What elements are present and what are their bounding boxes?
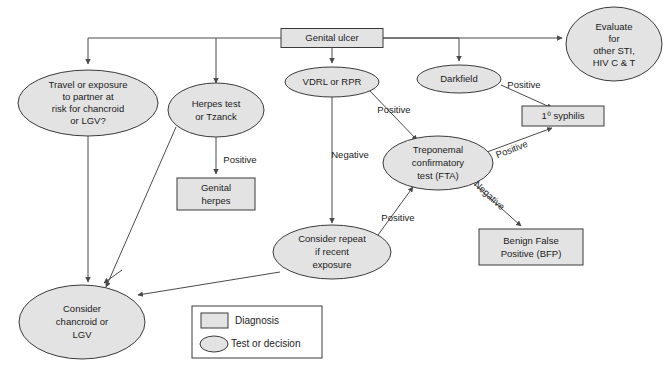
node-herpes-test[interactable]: Herpes test or Tzanck bbox=[168, 83, 264, 137]
legend-test-decision-label: Test or decision bbox=[231, 338, 300, 349]
legend-item-diagnosis: Diagnosis bbox=[201, 313, 279, 328]
node-evaluate-other-sti-line-1: for bbox=[608, 33, 619, 44]
legend: Diagnosis Test or decision bbox=[192, 306, 322, 358]
legend-diagnosis-label: Diagnosis bbox=[235, 315, 279, 326]
node-travel-exposure[interactable]: Travel or exposure to partner at risk fo… bbox=[18, 70, 158, 136]
node-travel-exposure-line-0: Travel or exposure bbox=[49, 79, 128, 90]
node-benign-false-positive-line-0: Benign False bbox=[503, 235, 558, 246]
edge-label-layer: Positive Negative Positive Positive Posi… bbox=[223, 79, 540, 223]
flowchart-svg: Genital ulcer Travel or exposure to part… bbox=[0, 0, 670, 382]
edge-ulcer-to-darkfield bbox=[383, 38, 459, 61]
node-consider-repeat-line-2: exposure bbox=[312, 259, 351, 270]
edge-repeat-to-chancroid bbox=[138, 272, 280, 295]
edge-ulcer-to-travel bbox=[88, 38, 281, 64]
edge-label-vdrl-negative: Negative bbox=[331, 149, 369, 160]
legend-item-test-decision: Test or decision bbox=[200, 336, 300, 352]
legend-test-decision-swatch bbox=[200, 336, 228, 352]
node-vdrl-rpr-line-0: VDRL or RPR bbox=[303, 76, 362, 87]
node-travel-exposure-line-2: risk for chancroid bbox=[52, 103, 124, 114]
node-consider-repeat[interactable]: Consider repeat if recent exposure bbox=[273, 225, 391, 279]
node-benign-false-positive[interactable]: Benign False Positive (BFP) bbox=[479, 229, 583, 265]
node-genital-herpes-line-1: herpes bbox=[201, 195, 230, 206]
node-herpes-test-line-1: or Tzanck bbox=[195, 111, 237, 122]
edge-label-fta-positive-syphilis: Positive bbox=[494, 138, 529, 160]
node-genital-herpes[interactable]: Genital herpes bbox=[177, 178, 255, 210]
node-consider-repeat-line-1: if recent bbox=[315, 246, 349, 257]
node-primary-syphilis-line-0: 1⁰ syphilis bbox=[541, 110, 584, 121]
node-evaluate-other-sti-line-3: HIV C & T bbox=[593, 57, 636, 68]
edge-vdrl-to-fta bbox=[370, 91, 417, 140]
node-consider-chancroid-line-0: Consider bbox=[63, 303, 101, 314]
node-darkfield-line-0: Darkfield bbox=[440, 73, 478, 84]
node-layer: Genital ulcer Travel or exposure to part… bbox=[18, 7, 662, 359]
edge-label-fta-negative: Negative bbox=[472, 178, 507, 212]
node-evaluate-other-sti-line-2: other STI, bbox=[593, 45, 635, 56]
edge-label-repeat-positive: Positive bbox=[381, 212, 414, 223]
node-herpes-test-line-0: Herpes test bbox=[192, 98, 241, 109]
edge-label-herpes-positive: Positive bbox=[223, 154, 256, 165]
node-treponemal-fta-line-1: confirmatory bbox=[412, 157, 465, 168]
edge-label-vdrl-positive: Positive bbox=[377, 104, 410, 115]
node-primary-syphilis[interactable]: 1⁰ syphilis bbox=[522, 106, 604, 126]
edge-herpes-to-chancroid bbox=[106, 127, 176, 287]
node-genital-ulcer[interactable]: Genital ulcer bbox=[281, 29, 383, 48]
node-travel-exposure-line-1: to partner at bbox=[62, 91, 114, 102]
node-vdrl-rpr[interactable]: VDRL or RPR bbox=[285, 67, 379, 97]
node-consider-chancroid-line-1: chancroid or bbox=[56, 316, 108, 327]
node-benign-false-positive-line-1: Positive (BFP) bbox=[501, 248, 562, 259]
node-consider-repeat-line-0: Consider repeat bbox=[298, 233, 366, 244]
node-genital-ulcer-line-0: Genital ulcer bbox=[305, 32, 358, 43]
node-evaluate-other-sti[interactable]: Evaluate for other STI, HIV C & T bbox=[566, 7, 662, 81]
node-darkfield[interactable]: Darkfield bbox=[417, 65, 501, 93]
node-genital-herpes-line-0: Genital bbox=[201, 182, 231, 193]
legend-diagnosis-swatch bbox=[201, 313, 228, 328]
node-consider-chancroid[interactable]: Consider chancroid or LGV bbox=[19, 285, 145, 359]
node-consider-chancroid-line-2: LGV bbox=[72, 329, 92, 340]
node-treponemal-fta-line-2: test (FTA) bbox=[417, 170, 459, 181]
node-travel-exposure-line-3: or LGV? bbox=[70, 115, 105, 126]
node-evaluate-other-sti-line-0: Evaluate bbox=[596, 21, 633, 32]
edge-label-darkfield-positive: Positive bbox=[507, 79, 540, 90]
flowchart-canvas: Genital ulcer Travel or exposure to part… bbox=[0, 0, 670, 382]
node-treponemal-fta-line-0: Treponemal bbox=[413, 144, 463, 155]
